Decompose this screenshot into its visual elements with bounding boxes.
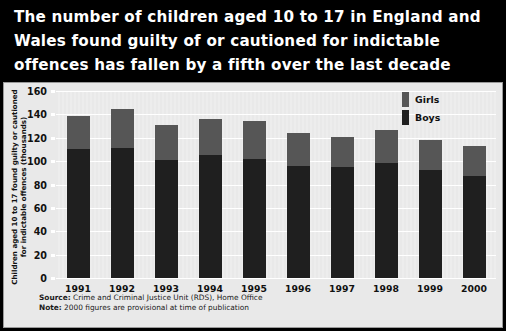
legend: Girls Boys: [402, 90, 476, 126]
source-text: Crime and Criminal Justice Unit (RDS), H…: [71, 293, 263, 302]
chart-figure: The number of children aged 10 to 17 in …: [0, 0, 506, 331]
bar-2000: [463, 146, 486, 278]
chart-panel: Children aged 10 to 17 found guilty or c…: [3, 82, 503, 328]
y-tick-mark: [51, 90, 55, 93]
bar-1997: [331, 137, 354, 278]
y-tick-mark: [51, 137, 55, 140]
headline-banner: The number of children aged 10 to 17 in …: [0, 0, 506, 81]
bar-1995: [243, 121, 266, 278]
bar-segment-girls: [375, 130, 398, 164]
note-label: Note:: [39, 303, 62, 312]
legend-label-girls: Girls: [415, 94, 439, 105]
y-tick-label: 160: [27, 86, 47, 97]
y-tick-label: 20: [34, 249, 47, 260]
bar-segment-boys: [287, 166, 310, 278]
bar-segment-boys: [419, 170, 442, 278]
bar-segment-girls: [67, 116, 90, 150]
y-tick-mark: [51, 160, 55, 163]
legend-label-boys: Boys: [415, 112, 440, 123]
y-tick-mark: [51, 184, 55, 187]
footnotes: Source: Crime and Criminal Justice Unit …: [39, 293, 479, 313]
bar-segment-boys: [67, 149, 90, 278]
publication-note: Note: 2000 figures are provisional at ti…: [39, 303, 479, 313]
y-tick-label: 40: [34, 226, 47, 237]
bar-1999: [419, 140, 442, 278]
y-tick-label: 100: [27, 156, 47, 167]
y-tick-mark: [51, 113, 55, 116]
legend-swatch-girls-icon: [402, 92, 409, 107]
bar-segment-girls: [287, 133, 310, 166]
bar-segment-boys: [463, 176, 486, 278]
bar-segment-boys: [243, 159, 266, 278]
bar-segment-girls: [199, 119, 222, 155]
bar-segment-girls: [155, 125, 178, 160]
y-tick-mark: [51, 277, 55, 280]
y-tick-label: 0: [40, 273, 47, 284]
legend-item-boys: Boys: [402, 108, 476, 126]
y-tick-mark: [51, 207, 55, 210]
y-tick-mark: [51, 254, 55, 257]
y-tick-label: 80: [34, 179, 47, 190]
bar-segment-girls: [243, 121, 266, 158]
source-note: Source: Crime and Criminal Justice Unit …: [39, 293, 479, 303]
y-tick-label: 140: [27, 109, 47, 120]
gridline: [56, 278, 496, 279]
headline-line-1: The number of children aged 10 to 17 in …: [14, 5, 492, 29]
y-tick-label: 60: [34, 202, 47, 213]
headline-line-2: Wales found guilty of or cautioned for i…: [14, 29, 492, 53]
source-label: Source:: [39, 293, 71, 302]
bar-segment-boys: [155, 160, 178, 278]
legend-swatch-boys-icon: [402, 110, 409, 125]
bar-segment-girls: [419, 140, 442, 170]
bar-segment-boys: [331, 167, 354, 278]
legend-item-girls: Girls: [402, 90, 476, 108]
bar-segment-boys: [375, 163, 398, 278]
y-tick-mark: [51, 230, 55, 233]
bar-segment-boys: [111, 148, 134, 278]
bar-segment-girls: [111, 109, 134, 149]
bar-segment-girls: [331, 137, 354, 167]
bar-segment-girls: [463, 146, 486, 176]
headline-line-3: offences has fallen by a fifth over the …: [14, 53, 492, 77]
bar-segment-boys: [199, 155, 222, 278]
y-axis-title-line-1: Children aged 10 to 17 found guilty or c…: [10, 89, 20, 284]
bar-1998: [375, 130, 398, 278]
bar-1993: [155, 125, 178, 278]
y-tick-label: 120: [27, 132, 47, 143]
bar-1991: [67, 116, 90, 278]
bar-1994: [199, 119, 222, 278]
bar-1992: [111, 109, 134, 278]
bar-1996: [287, 133, 310, 278]
note-text: 2000 figures are provisional at time of …: [62, 303, 249, 312]
